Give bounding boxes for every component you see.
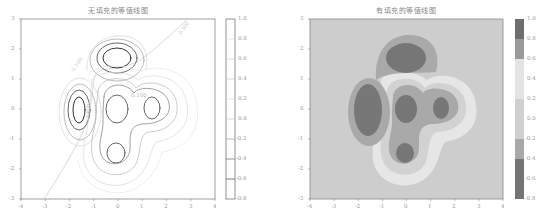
x-tick-label: 1 (140, 203, 144, 209)
y-tick-label: -2 (298, 165, 303, 171)
x-tick-label: 2 (452, 203, 456, 209)
x-tick-label: -2 (355, 203, 360, 209)
x-tick-label: 0 (404, 203, 408, 209)
filled-contour-plot (290, 0, 545, 223)
x-tick-label: -4 (18, 203, 23, 209)
y-tick-label: -3 (298, 195, 303, 201)
colorbar-tick-label: 1.0 (527, 15, 536, 21)
y-tick-label: -1 (298, 135, 303, 141)
y-tick-label: 2 (300, 45, 304, 51)
unfilled-contour-panel: 无填充的等值线图 (0, 0, 272, 223)
unfilled-contour-plot: 0.100 0.100 -0.600 0.300 (0, 0, 272, 223)
colorbar-tick-label: -0.4 (236, 155, 247, 161)
x-tick-label: 3 (189, 203, 193, 209)
colorbar-tick-label: 0.8 (527, 35, 536, 41)
y-tick-label: 1 (11, 75, 15, 81)
colorbar-tick-label: -0.2 (236, 135, 247, 141)
colorbar-tick-label: 0.8 (238, 35, 247, 41)
colorbar-tick-label: -0.4 (525, 155, 536, 161)
colorbar-tick-label: -0.2 (525, 135, 536, 141)
colorbar-tick-label: 0.0 (527, 115, 536, 121)
colorbar (515, 19, 524, 199)
x-tick-label: -3 (331, 203, 336, 209)
colorbar-tick-label: -0.8 (236, 195, 247, 201)
y-tick-label: -1 (9, 135, 14, 141)
x-tick-label: 4 (213, 203, 217, 209)
y-tick-label: 1 (300, 75, 304, 81)
colorbar-tick-label: 0.6 (527, 55, 536, 61)
colorbar-tick-label: 1.0 (238, 15, 247, 21)
y-tick-label: -3 (9, 195, 14, 201)
y-tick-label: 0 (300, 105, 304, 111)
y-tick-label: 0 (11, 105, 15, 111)
x-tick-label: 1 (428, 203, 432, 209)
filled-contour-panel: 有填充的等值线图 (290, 0, 545, 223)
colorbar-tick-label: -0.6 (236, 175, 247, 181)
x-tick-label: 4 (501, 203, 505, 209)
contour-label: -0.600 (85, 104, 91, 120)
x-tick-label: -4 (307, 203, 312, 209)
colorbar-tick-label: 0.4 (238, 75, 247, 81)
x-tick-label: 2 (164, 203, 168, 209)
x-tick-label: -1 (91, 203, 96, 209)
colorbar-tick-label: 0.2 (527, 95, 536, 101)
x-tick-label: 0 (116, 203, 120, 209)
colorbar-tick-label: -0.8 (525, 195, 536, 201)
colorbar-tick-label: -0.6 (525, 175, 536, 181)
x-tick-label: 3 (477, 203, 481, 209)
x-tick-label: -2 (66, 203, 71, 209)
y-tick-label: -2 (9, 165, 14, 171)
colorbar (226, 19, 235, 199)
contour-label: 0.100 (131, 92, 147, 98)
y-tick-label: 3 (11, 15, 15, 21)
x-tick-label: -1 (379, 203, 384, 209)
colorbar-tick-label: 0.2 (238, 95, 247, 101)
x-tick-label: -3 (42, 203, 47, 209)
colorbar-tick-label: 0.4 (527, 75, 536, 81)
colorbar-tick-label: 0.0 (238, 115, 247, 121)
y-tick-label: 3 (300, 15, 304, 21)
y-tick-label: 2 (11, 45, 15, 51)
colorbar-tick-label: 0.6 (238, 55, 247, 61)
